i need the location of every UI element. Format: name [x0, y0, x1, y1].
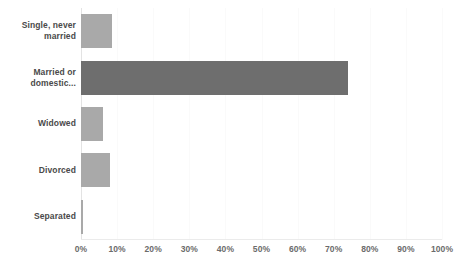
bar[interactable]: [81, 200, 83, 234]
bar[interactable]: [81, 61, 348, 95]
x-tick-label: 60%: [289, 243, 306, 255]
bar-row: [81, 14, 442, 48]
x-tick-label: 40%: [217, 243, 234, 255]
x-tick-label: 50%: [253, 243, 270, 255]
category-axis: Single, never marriedMarried or domestic…: [0, 8, 76, 240]
bar[interactable]: [81, 107, 103, 141]
bar-row: [81, 200, 442, 234]
value-axis: 0%10%20%30%40%50%60%70%80%90%100%: [81, 243, 442, 259]
gridline-100pct: [442, 8, 443, 240]
category-label: Single, never married: [0, 8, 76, 54]
x-tick-label: 0%: [75, 243, 88, 255]
x-tick-label: 90%: [397, 243, 414, 255]
bar[interactable]: [81, 153, 110, 187]
category-label: Widowed: [0, 101, 76, 147]
x-tick-label: 10%: [108, 243, 125, 255]
x-tick-label: 80%: [361, 243, 378, 255]
category-label: Divorced: [0, 147, 76, 193]
category-label: Married or domestic...: [0, 54, 76, 100]
x-tick-label: 100%: [431, 243, 453, 255]
plot-area: [81, 8, 442, 240]
x-tick-label: 20%: [145, 243, 162, 255]
bar-row: [81, 61, 442, 95]
category-label: Separated: [0, 194, 76, 240]
x-tick-label: 30%: [181, 243, 198, 255]
x-tick-label: 70%: [325, 243, 342, 255]
bar-chart: Single, never marriedMarried or domestic…: [0, 0, 468, 272]
bar[interactable]: [81, 14, 112, 48]
bar-row: [81, 107, 442, 141]
bar-row: [81, 153, 442, 187]
bar-series: [81, 8, 442, 240]
